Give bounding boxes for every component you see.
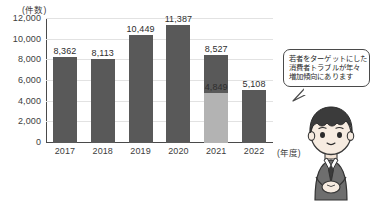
bar[interactable]: 5,108 (242, 90, 266, 143)
bar-group: 8,3628,11310,44911,3874,8498,5275,108 (46, 19, 273, 143)
bar[interactable]: 8,362 (53, 57, 77, 143)
speech-bubble-line-2: 消費者トラブルが年々 (289, 63, 365, 72)
y-axis-tick-label: 6,000 (18, 75, 41, 85)
bar-slot: 5,108 (235, 19, 273, 143)
y-axis-tick-label: 0 (36, 137, 41, 147)
bar[interactable]: 8,113 (91, 59, 115, 143)
speech-bubble-line-1: 若者をターゲットにした (289, 54, 365, 63)
bar-value-label: 8,527 (205, 44, 228, 54)
y-axis-tick-label: 4,000 (18, 96, 41, 106)
bar-segment (166, 25, 190, 143)
x-axis-tick-label: 2020 (160, 146, 198, 156)
bar[interactable]: 10,449 (129, 35, 153, 143)
bar-value-label: 4,849 (205, 82, 228, 92)
bar-slot: 8,113 (84, 19, 122, 143)
x-axis-labels: 201720182019202020212022 (46, 146, 273, 156)
bar-segment (242, 90, 266, 143)
speech-bubble: 若者をターゲットにした 消費者トラブルが年々 増加傾向にあります (283, 49, 370, 87)
plot-area: 02,0004,0006,0008,00010,00012,000 8,3628… (46, 19, 273, 143)
chart-page: (件数) 02,0004,0006,0008,00010,00012,000 8… (0, 0, 377, 201)
y-axis-tick-label: 10,000 (13, 34, 41, 44)
y-axis-tick-label: 12,000 (13, 13, 41, 23)
bar-slot: 4,8498,527 (197, 19, 235, 143)
bar-segment (91, 59, 115, 143)
bar[interactable]: 11,387 (166, 25, 190, 143)
bar-slot: 8,362 (46, 19, 84, 143)
character-illustration (294, 103, 368, 201)
x-axis-tick-label: 2019 (122, 146, 160, 156)
x-axis-tick-label: 2022 (235, 146, 273, 156)
y-axis-tick-label: 2,000 (18, 116, 41, 126)
x-axis-tick-label: 2017 (46, 146, 84, 156)
bar-value-label: 10,449 (126, 24, 154, 34)
bar[interactable]: 4,8498,527 (204, 55, 228, 143)
speech-bubble-line-3: 増加傾向にあります (289, 72, 365, 81)
y-axis-tick-label: 8,000 (18, 54, 41, 64)
x-axis-tick-label: 2021 (197, 146, 235, 156)
bar-segment (129, 35, 153, 143)
bar-value-label: 8,113 (92, 48, 114, 58)
x-axis-tick-label: 2018 (84, 146, 122, 156)
bar-slot: 10,449 (122, 19, 160, 143)
bar-segment-lower (204, 93, 228, 143)
bar-segment (53, 57, 77, 143)
bar-value-label: 5,108 (243, 79, 266, 89)
speech-bubble-tail-icon (291, 88, 307, 102)
bar-slot: 11,387 (160, 19, 198, 143)
bar-value-label: 11,387 (165, 14, 192, 24)
bar-value-label: 8,362 (53, 46, 76, 56)
